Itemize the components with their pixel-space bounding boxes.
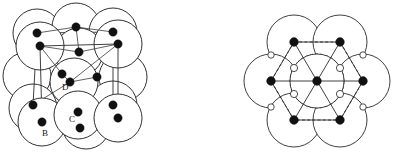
close-packed-layer-panel	[198, 0, 396, 152]
label-A: A	[30, 100, 37, 110]
sphere-layer-front	[18, 91, 142, 149]
fcc-unit-cell-svg: A B C D	[0, 0, 198, 152]
label-C: C	[69, 114, 75, 124]
close-packed-layer-svg	[198, 0, 396, 152]
label-D: D	[62, 82, 69, 92]
fcc-unit-cell-panel: A B C D	[0, 0, 198, 152]
label-B: B	[42, 128, 48, 138]
figure-root: A B C D	[0, 0, 396, 152]
